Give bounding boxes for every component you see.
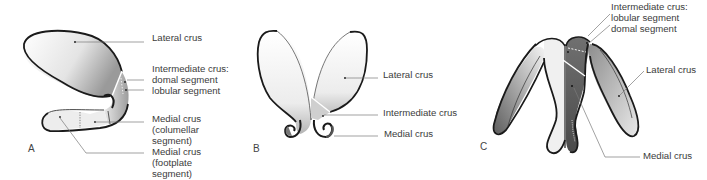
panel-b-label-intermediate-crus: Intermediate crus	[383, 108, 457, 119]
panel-b-label-lateral-crus: Lateral crus	[383, 70, 433, 81]
panel-c-left-medial-crus-shape	[544, 38, 564, 153]
panel-a-medial-crus-shape	[43, 110, 108, 130]
panel-c-drawing	[494, 14, 644, 157]
panel-c-left-lateral-crus-shape	[494, 47, 545, 134]
panel-c-letter: C	[480, 141, 487, 152]
panel-b-left-lateral-crus-shape	[257, 32, 311, 134]
panel-a-letter: A	[28, 143, 35, 154]
panel-a-lateral-crus-shape	[24, 31, 122, 97]
panel-a-drawing	[24, 31, 144, 153]
panel-a-label-lobular-segment: lobular segment	[152, 86, 220, 97]
panel-a-label-lateral-crus: Lateral crus	[152, 33, 202, 44]
panel-c-label-domal-segment: domal segment	[611, 24, 677, 35]
panel-b-drawing	[257, 31, 378, 137]
panel-a-label-footplate-segment: segment)	[152, 169, 192, 180]
panel-c-label-medial-crus: Medial crus	[643, 151, 692, 162]
panel-c-label-lateral-crus: Lateral crus	[646, 65, 696, 76]
panel-b-label-medial-crus: Medial crus	[384, 129, 433, 140]
panel-c-right-lateral-crus-shape	[589, 44, 638, 136]
diagram-canvas: A B	[0, 0, 707, 180]
panel-b-letter: B	[253, 143, 260, 154]
